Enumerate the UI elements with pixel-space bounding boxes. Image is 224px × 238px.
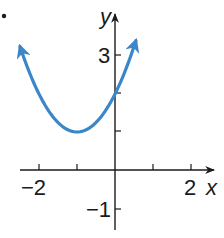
y-axis-label: y [98, 4, 113, 29]
problem-marker [2, 14, 6, 18]
graph: −2 2 x 3 −1 y [0, 0, 224, 238]
y-ticks [115, 55, 121, 209]
tick-label-y-neg1: −1 [86, 197, 111, 222]
tick-label-y-3: 3 [98, 43, 110, 68]
tick-label-x-2: 2 [184, 175, 196, 200]
x-axis-label: x [205, 175, 218, 200]
tick-label-x-neg2: −2 [21, 175, 46, 200]
